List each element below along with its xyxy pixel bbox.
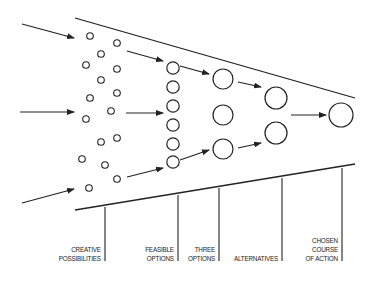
creative-to-feasible-arrows bbox=[126, 51, 163, 177]
label-chosen-course-of-action: CHOSEN COURSE OF ACTION bbox=[306, 236, 338, 263]
three-to-alternatives-arrows bbox=[238, 82, 261, 148]
funnel-bottom-edge bbox=[75, 164, 355, 210]
alternative-circles bbox=[265, 87, 287, 144]
label-alternatives: ALTERNATIVES bbox=[234, 254, 278, 263]
label-three-options: THREE OPTIONS bbox=[188, 245, 215, 263]
chosen-course-circle bbox=[329, 103, 353, 127]
label-feasible-options: FEASIBLE OPTIONS bbox=[145, 245, 174, 263]
label-creative-possibilities: CREATIVE POSSIBILITIES bbox=[59, 245, 101, 263]
feasible-option-circles bbox=[167, 62, 179, 168]
funnel-top-edge bbox=[75, 18, 355, 98]
three-option-circles bbox=[213, 69, 233, 159]
feasible-to-three-arrows bbox=[180, 66, 209, 160]
creative-possibility-circles bbox=[79, 33, 121, 192]
input-arrows bbox=[20, 24, 74, 203]
